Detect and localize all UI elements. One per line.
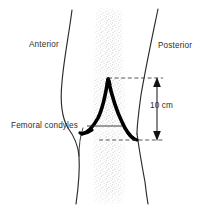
- bone-shaft-group: [90, 6, 128, 206]
- label-measurement-10cm: 10 cm: [150, 102, 173, 110]
- label-anterior: Anterior: [29, 41, 59, 49]
- knee-diagram-figure: Anterior Posterior Femoral condyles 10 c…: [0, 0, 202, 210]
- label-femoral-condyles: Femoral condyles: [11, 122, 78, 130]
- label-posterior: Posterior: [158, 42, 192, 50]
- femur-shaft-stipple: [92, 6, 126, 84]
- tibia-shaft-stipple: [90, 126, 128, 206]
